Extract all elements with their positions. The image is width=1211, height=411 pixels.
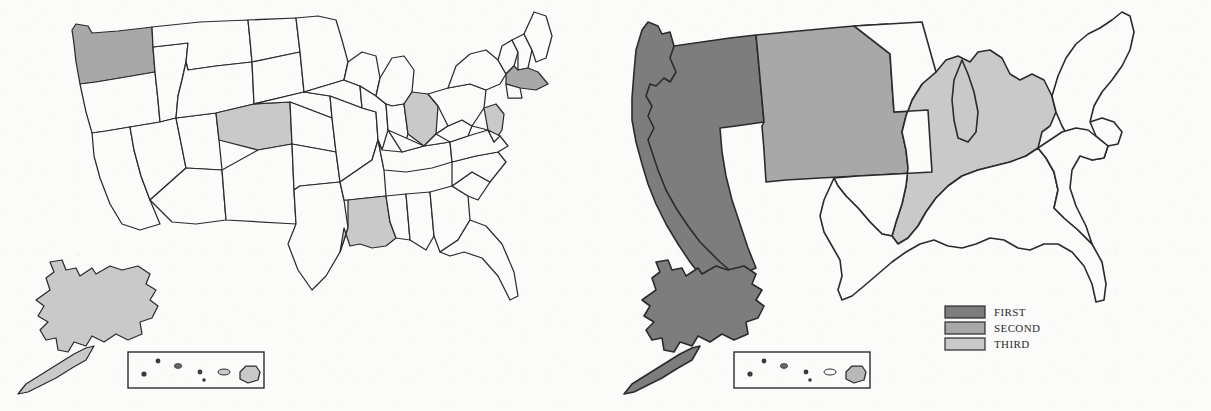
state-alabama <box>406 192 434 250</box>
state-texas <box>288 182 348 290</box>
hawaii-island-big-island <box>846 366 866 383</box>
left-map-panel <box>0 0 605 411</box>
legend-item-second: SECOND <box>945 322 1040 334</box>
legend-label-second: SECOND <box>994 322 1040 334</box>
hawaii-island-maui <box>824 369 836 375</box>
hawaii-island-molokai <box>780 364 787 369</box>
hawaii-island-kauai <box>747 371 752 376</box>
region-pacific-coast <box>632 22 764 292</box>
left-map-svg <box>0 0 605 411</box>
hawaii-island-maui <box>218 369 230 375</box>
hawaii-island-oahu <box>762 359 767 364</box>
hawaii-island-lanai <box>804 370 809 375</box>
state-new-york <box>448 50 506 90</box>
legend-item-first: FIRST <box>945 306 1026 318</box>
hawaii-island-big-island <box>240 366 260 383</box>
hawaii-island-oahu <box>156 359 161 364</box>
state-alaska <box>624 260 764 394</box>
legend-swatch-first <box>945 306 985 318</box>
hawaii-island-kauai <box>141 371 146 376</box>
state-new-mexico <box>222 144 296 224</box>
map-legend: FIRST SECOND THIRD <box>945 306 1040 350</box>
right-map-svg: FIRST SECOND THIRD <box>606 0 1211 411</box>
hawaii-island-kahoolawe <box>202 378 206 382</box>
state-alaska <box>18 260 158 394</box>
legend-label-third: THIRD <box>994 338 1030 350</box>
legend-item-third: THIRD <box>945 338 1030 350</box>
legend-swatch-second <box>945 322 985 334</box>
hawaii-island-kahoolawe <box>808 378 812 382</box>
hawaii-island-molokai <box>174 364 181 369</box>
legend-label-first: FIRST <box>994 306 1026 318</box>
legend-swatch-third <box>945 338 985 350</box>
right-map-panel: FIRST SECOND THIRD <box>606 0 1211 411</box>
hawaii-island-lanai <box>198 370 203 375</box>
